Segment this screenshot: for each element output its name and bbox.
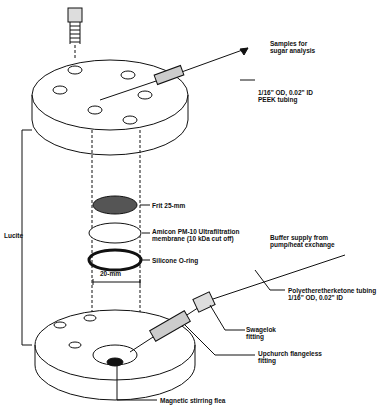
peek2-label: Polyetheretherketone tubing 1/16" OD, 0.…	[288, 287, 376, 301]
peek-tubing-label: 1/16" OD, 0.02" ID PEEK tubing	[258, 89, 313, 103]
oring-label: Silicone O-ring	[152, 257, 198, 264]
swagelok-label: Swagelok fitting	[246, 326, 276, 340]
upchurch-label: Upchurch flangeless fitting	[258, 350, 322, 364]
frit-label: Frit 25-mm	[152, 202, 185, 209]
buffer-label: Buffer supply from pump/heat exchange	[270, 234, 335, 248]
apparatus-diagram	[0, 0, 385, 419]
screw-head	[68, 8, 82, 22]
dimension-label: 20-mm	[100, 270, 121, 277]
stir-label: Magnetic stirring flea	[160, 397, 225, 404]
samples-label: Samples for sugar analysis	[270, 40, 315, 54]
membrane-label: Amicon PM-10 Ultrafiltration membrane (1…	[152, 228, 239, 242]
lucite-label: Lucite	[4, 232, 23, 239]
